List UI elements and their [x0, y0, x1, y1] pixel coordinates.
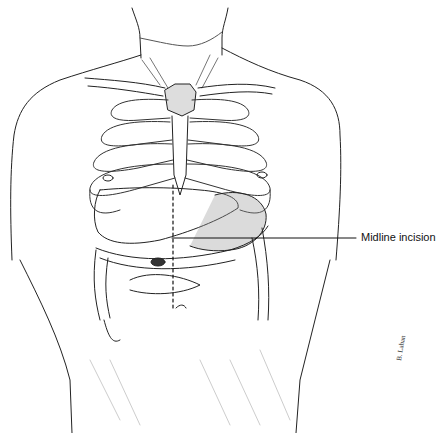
pancreas-shadow	[151, 258, 165, 266]
umbilicus	[176, 305, 186, 308]
left-flank	[20, 260, 72, 433]
left-shoulder-outline	[11, 55, 141, 260]
stomach	[190, 192, 266, 250]
callout-label: Midline incision	[361, 231, 436, 243]
left-nipple	[103, 175, 113, 181]
left-ribcage	[90, 99, 175, 213]
sternum	[172, 116, 188, 195]
torso-drawing	[0, 0, 442, 433]
appendix	[104, 320, 120, 341]
right-flank	[296, 260, 330, 433]
small-intestine	[130, 275, 200, 294]
neck-left-outline	[132, 8, 141, 58]
manubrium	[165, 84, 196, 116]
ascending-colon	[94, 250, 100, 320]
abdominal-wall-shading	[90, 350, 290, 425]
anatomy-illustration: Midline incision B. Lahan	[0, 0, 442, 433]
descending-colon	[262, 228, 269, 320]
